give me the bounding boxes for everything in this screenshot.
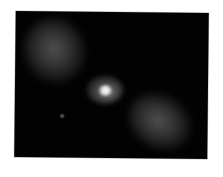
point-source	[60, 113, 65, 118]
northwest-lobe	[14, 11, 96, 93]
astronomical-image-frame	[14, 11, 209, 159]
image-canvas	[0, 0, 223, 177]
southeast-lobe	[117, 81, 201, 159]
central-core	[99, 85, 112, 96]
